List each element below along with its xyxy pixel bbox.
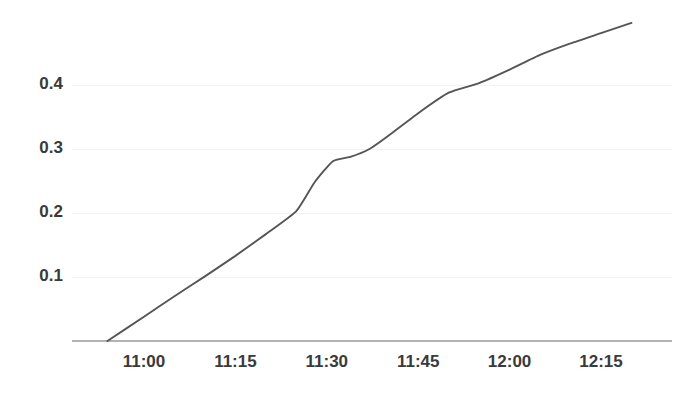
x-tick-label: 12:15 (579, 352, 622, 371)
data-series (107, 23, 631, 341)
x-tick-label: 11:30 (306, 352, 349, 371)
gridlines (72, 85, 672, 277)
line-chart: 0.10.20.30.4 11:0011:1511:3011:4512:0012… (0, 0, 687, 405)
x-tick-label: 12:00 (488, 352, 531, 371)
x-tick-label: 11:45 (397, 352, 440, 371)
x-tick-label: 11:15 (214, 352, 257, 371)
y-axis-tick-labels: 0.10.20.30.4 (39, 74, 63, 285)
chart-canvas: 0.10.20.30.4 11:0011:1511:3011:4512:0012… (0, 0, 687, 405)
y-tick-label: 0.4 (39, 74, 63, 93)
series-line-1 (107, 23, 631, 341)
x-tick-label: 11:00 (123, 352, 166, 371)
y-tick-label: 0.2 (39, 202, 63, 221)
y-tick-label: 0.1 (39, 266, 63, 285)
x-axis-tick-labels: 11:0011:1511:3011:4512:0012:15 (123, 352, 623, 371)
y-tick-label: 0.3 (39, 138, 63, 157)
